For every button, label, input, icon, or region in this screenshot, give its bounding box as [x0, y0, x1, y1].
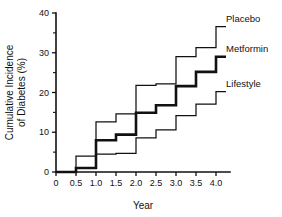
series-label-lifestyle: Lifestyle	[226, 78, 261, 89]
axes	[56, 13, 230, 172]
series-line-lifestyle	[56, 92, 226, 172]
x-tick-label: 0.5	[70, 178, 83, 188]
y-tick-label: 20	[39, 88, 49, 98]
series-label-metformin: Metformin	[226, 43, 268, 54]
x-tick-label: 1.0	[90, 178, 103, 188]
x-tick-label: 2.0	[130, 178, 143, 188]
y-tick-label: 10	[39, 127, 49, 137]
axis-tick-labels: 00.51.01.52.02.53.03.54.0010203040	[39, 8, 222, 188]
cumulative-incidence-chart: 00.51.01.52.02.53.03.54.0010203040 Place…	[0, 0, 282, 217]
chart-figure: 00.51.01.52.02.53.03.54.0010203040 Place…	[0, 0, 282, 217]
series-labels: PlaceboMetforminLifestyle	[226, 13, 268, 89]
y-tick-label: 0	[44, 167, 49, 177]
series-line-placebo	[56, 27, 226, 172]
x-tick-label: 3.5	[190, 178, 203, 188]
axis-ticks	[52, 13, 216, 176]
y-axis-title-line2: of Diabetes (%)	[16, 58, 27, 127]
x-tick-label: 3.0	[170, 178, 183, 188]
series-line-metformin	[56, 57, 226, 172]
x-tick-label: 1.5	[110, 178, 123, 188]
x-tick-label: 4.0	[210, 178, 223, 188]
series-curves	[56, 27, 226, 172]
x-axis-title: Year	[133, 200, 154, 211]
y-tick-label: 40	[39, 8, 49, 18]
x-tick-label: 2.5	[150, 178, 163, 188]
x-tick-label: 0	[53, 178, 58, 188]
y-axis-title-line1: Cumulative Incidence	[4, 44, 15, 140]
series-label-placebo: Placebo	[226, 13, 260, 24]
y-tick-label: 30	[39, 48, 49, 58]
